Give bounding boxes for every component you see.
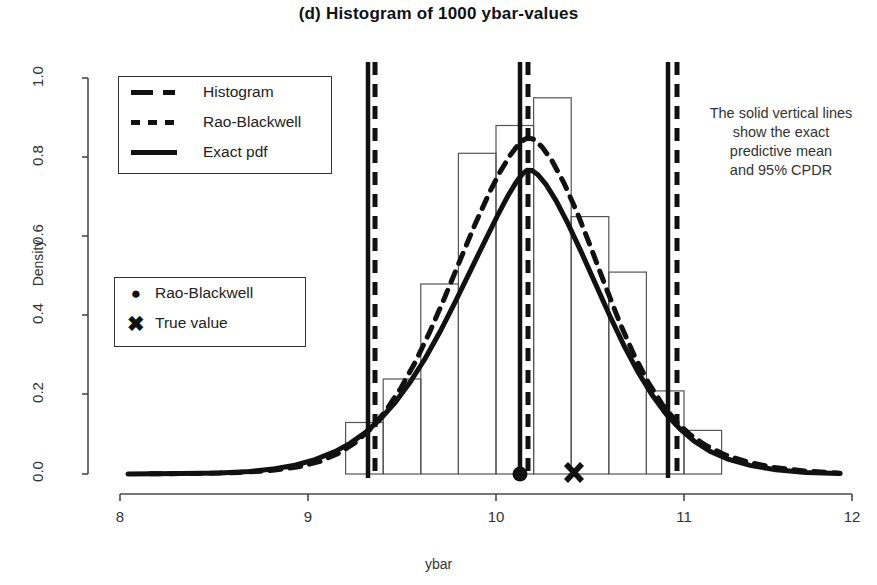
- rao-blackwell-point-marker: [513, 467, 528, 482]
- y-axis: [82, 78, 88, 474]
- legend-line-styles: Histogram Rao-Blackwell Exact pdf: [118, 76, 332, 174]
- annotation-line-4: and 95% CPDR: [686, 161, 876, 180]
- x-axis: [120, 494, 852, 501]
- legend-item-rao-blackwell-point: ● Rao-Blackwell: [115, 278, 305, 308]
- histogram-bars: [346, 98, 722, 474]
- annotation-line-1: The solid vertical lines: [686, 104, 876, 123]
- vertical-reference-lines: [368, 62, 677, 478]
- true-value-x-marker: [566, 464, 582, 481]
- legend-point-markers: ● Rao-Blackwell ✖ True value: [114, 277, 306, 347]
- annotation-line-3: predictive mean: [686, 142, 876, 161]
- legend-label: Rao-Blackwell: [203, 113, 301, 131]
- legend-item-rao-blackwell: Rao-Blackwell: [119, 107, 331, 137]
- x-cross-icon: ✖: [121, 313, 151, 334]
- dashed-line-icon: [131, 84, 193, 100]
- annotation-line-2: show the exact: [686, 123, 876, 142]
- legend-label: Exact pdf: [203, 143, 268, 161]
- legend-label: Rao-Blackwell: [155, 284, 253, 302]
- annotation-text: The solid vertical lines show the exact …: [686, 104, 876, 180]
- dotted-line-icon: [131, 114, 193, 130]
- legend-item-exact-pdf: Exact pdf: [119, 137, 331, 167]
- filled-circle-icon: ●: [121, 285, 151, 302]
- legend-label: Histogram: [203, 83, 274, 101]
- legend-label: True value: [155, 314, 228, 332]
- solid-line-icon: [131, 144, 193, 160]
- legend-item-histogram: Histogram: [119, 77, 331, 107]
- legend-item-true-value-point: ✖ True value: [115, 308, 305, 338]
